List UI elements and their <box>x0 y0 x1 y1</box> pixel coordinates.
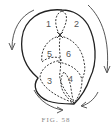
right-arrow <box>88 5 108 72</box>
dashed-lobe-1-2 <box>56 11 67 35</box>
bottom-right-arrow <box>82 92 98 106</box>
region-label-5: 5 <box>47 49 52 59</box>
outer-outline <box>22 10 95 104</box>
region-label-2: 2 <box>74 19 79 29</box>
region-label-4: 4 <box>68 74 73 84</box>
region-label-1: 1 <box>46 19 51 29</box>
cross-mark <box>57 32 63 38</box>
region-label-3: 3 <box>47 76 52 86</box>
region-label-6: 6 <box>66 49 71 59</box>
left-top-arrow <box>12 10 34 48</box>
heart-shaped-diagram: 1 2 5 6 3 4 <box>0 0 112 125</box>
figure-caption: FIG. 58 <box>0 116 112 125</box>
